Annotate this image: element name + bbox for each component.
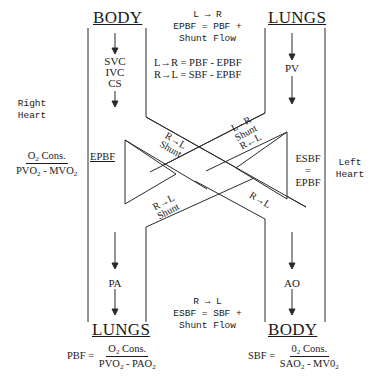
right-heart-flow-formula: O2 Cons. PVO2 - MVO2 [14, 150, 79, 177]
left-heart-label: Left Heart [330, 157, 370, 181]
top-note-l-to-r: L → R EPBF = PBF + Shunt Flow [160, 9, 255, 45]
venous-inputs: SVC IVC CS [100, 56, 130, 89]
arrow-down-icon [289, 263, 295, 269]
label-pv: PV [282, 63, 302, 74]
heading-lungs-bottom: LUNGS [92, 320, 150, 340]
bottom-note-r-to-l: R → L ESBF = SBF + Shunt Flow [160, 296, 255, 332]
heading-lungs-top: LUNGS [268, 8, 326, 28]
heading-body-bottom: BODY [268, 320, 317, 340]
arrow-down-icon [112, 309, 118, 315]
right-heart-label: Right Heart [12, 98, 52, 122]
esbf-equals-epbf: ESBF = EPBF [291, 153, 325, 189]
sbf-formula: SBF = 02 Cons. SAO2 - MV02 [248, 343, 341, 370]
label-epbf: EPBF [90, 151, 115, 162]
label-pa: PA [104, 278, 126, 289]
heading-body-top: BODY [93, 8, 142, 28]
arrow-down-icon [112, 48, 118, 54]
arrow-down-icon [112, 263, 118, 269]
arrow-down-icon [289, 54, 295, 60]
pbf-formula: PBF = O2 Cons. PVO2 - PAO2 [67, 343, 158, 370]
label-cs: CS [100, 78, 130, 89]
label-ao: AO [281, 278, 303, 289]
top-note-equations: L→R = PBF - EPBF R→L = SBF - EPBF [154, 57, 242, 81]
arrow-down-icon [112, 101, 118, 107]
arrow-down-icon [289, 309, 295, 315]
arrow-down-icon [289, 98, 295, 104]
